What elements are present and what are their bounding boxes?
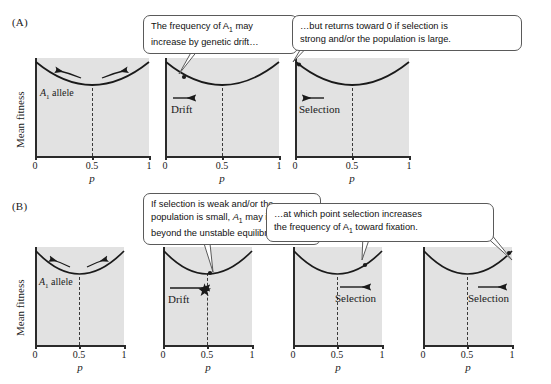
x-tick-label-05: 0.5 bbox=[210, 160, 234, 171]
panel-b-y-axis-label: Mean fitness bbox=[14, 279, 26, 336]
panel-a-label: (A) bbox=[12, 16, 28, 28]
force-label: Drift bbox=[171, 103, 192, 115]
x-tick-label-0: 0 bbox=[285, 160, 305, 171]
x-tick-label-1: 1 bbox=[372, 349, 392, 360]
x-tick-label-1: 1 bbox=[242, 349, 262, 360]
panel-b: (B) Mean fitness bbox=[0, 186, 551, 384]
callout-b2-line2a: the frequency of A bbox=[274, 222, 349, 232]
allele-label: A1 allele bbox=[39, 276, 73, 290]
x-tick-label-1: 1 bbox=[502, 349, 522, 360]
force-label: Drift bbox=[168, 293, 189, 305]
callout-b1-line1: If selection is weak and/or the bbox=[151, 199, 273, 209]
x-tick-label-05: 0.5 bbox=[340, 160, 364, 171]
panel-b-chart-1: A1 allele 0 0.5 1 p bbox=[32, 247, 124, 367]
callout-a2-line1: …but returns toward 0 if selection is bbox=[300, 21, 448, 31]
callout-a-2: …but returns toward 0 if selection is st… bbox=[292, 15, 522, 51]
callout-b2-line1: …at which point selection increases bbox=[274, 209, 422, 219]
callout-a1-line2: increase by genetic drift… bbox=[151, 37, 258, 47]
figure-underdominance-drift-selection: (A) Mean fitness bbox=[0, 0, 551, 384]
x-axis-label: p bbox=[328, 361, 348, 373]
x-axis-label: p bbox=[212, 172, 232, 184]
x-tick-label-0: 0 bbox=[25, 349, 45, 360]
x-axis-label: p bbox=[458, 361, 478, 373]
x-tick-label-1: 1 bbox=[114, 349, 134, 360]
x-tick-label-0: 0 bbox=[25, 160, 45, 171]
x-tick-label-1: 1 bbox=[399, 160, 419, 171]
callout-b1-line2a: population is small, bbox=[151, 212, 233, 222]
x-tick-label-05: 0.5 bbox=[195, 349, 219, 360]
callout-b-2: …at which point selection increases the … bbox=[266, 203, 494, 242]
panel-b-chart-4: Selection 0 0.5 1 p bbox=[420, 247, 512, 367]
panel-b-chart-3: Selection 0 0.5 1 p bbox=[290, 247, 382, 367]
x-tick-label-0: 0 bbox=[283, 349, 303, 360]
x-tick-label-05: 0.5 bbox=[67, 349, 91, 360]
force-label: Selection bbox=[299, 103, 340, 115]
force-label: Selection bbox=[335, 292, 376, 304]
callout-a2-line2: strong and/or the population is large. bbox=[300, 34, 451, 44]
x-axis-label: p bbox=[70, 361, 90, 373]
x-axis-label: p bbox=[198, 361, 218, 373]
curve-direction-arrows bbox=[32, 58, 149, 158]
x-axis-label: p bbox=[342, 172, 362, 184]
curve-direction-arrows bbox=[32, 247, 124, 347]
allele-suffix: allele bbox=[49, 276, 73, 287]
x-tick-label-05: 0.5 bbox=[80, 160, 104, 171]
x-axis-label: p bbox=[82, 172, 102, 184]
x-tick-label-05: 0.5 bbox=[455, 349, 479, 360]
panel-a-chart-2: Drift 0 0.5 1 p bbox=[162, 58, 279, 178]
callout-a1-line1b: may bbox=[233, 21, 253, 31]
panel-b-label: (B) bbox=[12, 200, 27, 212]
force-label: Selection bbox=[468, 292, 509, 304]
allele-suffix: allele bbox=[50, 87, 74, 98]
x-tick-label-05: 0.5 bbox=[325, 349, 349, 360]
x-tick-label-0: 0 bbox=[153, 349, 173, 360]
panel-a-chart-3: Selection 0 0.5 1 p bbox=[292, 58, 409, 178]
x-tick-label-0: 0 bbox=[155, 160, 175, 171]
callout-b2-line2b: toward fixation. bbox=[353, 222, 418, 232]
allele-label: A1 allele bbox=[40, 87, 74, 101]
callout-a1-line1: The frequency of A bbox=[151, 21, 229, 31]
equilibrium-star-marker bbox=[198, 283, 211, 296]
panel-a: (A) Mean fitness bbox=[0, 0, 551, 192]
panel-a-chart-1: A1 allele 0 0.5 1 p bbox=[32, 58, 149, 178]
panel-a-y-axis-label: Mean fitness bbox=[14, 91, 26, 148]
x-tick-label-0: 0 bbox=[413, 349, 433, 360]
callout-a-1: The frequency of A1 may increase by gene… bbox=[143, 15, 298, 54]
